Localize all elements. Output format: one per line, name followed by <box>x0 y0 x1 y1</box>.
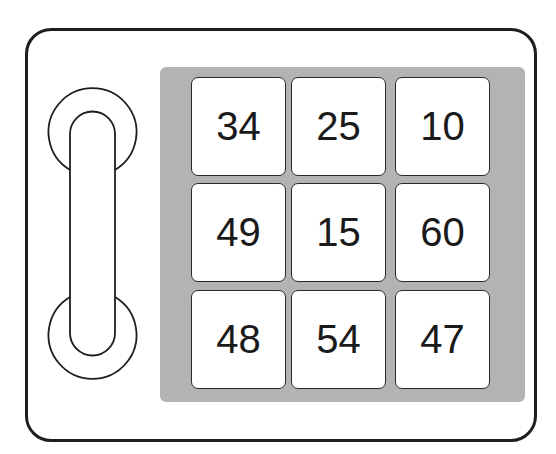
keypad-key-r3c1[interactable]: 48 <box>191 290 286 389</box>
keypad-key-r2c1[interactable]: 49 <box>191 183 286 282</box>
keypad-key-r1c1[interactable]: 34 <box>191 77 286 176</box>
keypad-key-r3c2[interactable]: 54 <box>291 290 386 389</box>
keypad-key-r1c3[interactable]: 10 <box>395 77 490 176</box>
keypad-key-r2c2[interactable]: 15 <box>291 183 386 282</box>
keypad-key-r1c2[interactable]: 25 <box>291 77 386 176</box>
keypad-panel: 34 25 10 49 15 60 48 54 47 <box>160 67 525 402</box>
keypad-key-r3c3[interactable]: 47 <box>395 290 490 389</box>
door-handle[interactable] <box>48 90 138 376</box>
keypad-key-r2c3[interactable]: 60 <box>395 183 490 282</box>
